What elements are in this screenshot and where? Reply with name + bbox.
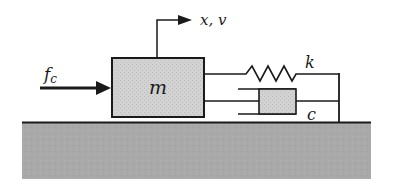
force-arrowhead-icon — [96, 81, 111, 95]
force-arrow: fc — [40, 64, 111, 95]
mass-label: m — [149, 76, 167, 98]
motion-label: x, v — [200, 11, 227, 29]
motion-arrowhead-icon — [178, 15, 192, 25]
force-label: fc — [42, 64, 57, 86]
mass: m — [112, 58, 204, 117]
mass-spring-damper-diagram: m fc x, v k c — [0, 0, 394, 184]
ground-block — [22, 122, 371, 179]
spring: k — [204, 53, 339, 81]
damper: c — [204, 89, 339, 124]
motion-arrow-line — [157, 20, 180, 58]
spring-label: k — [305, 53, 315, 72]
spring-coil — [204, 66, 339, 81]
ground — [22, 122, 371, 179]
damper-piston — [259, 89, 296, 114]
motion-arrow: x, v — [157, 11, 227, 58]
damper-label: c — [307, 105, 316, 124]
